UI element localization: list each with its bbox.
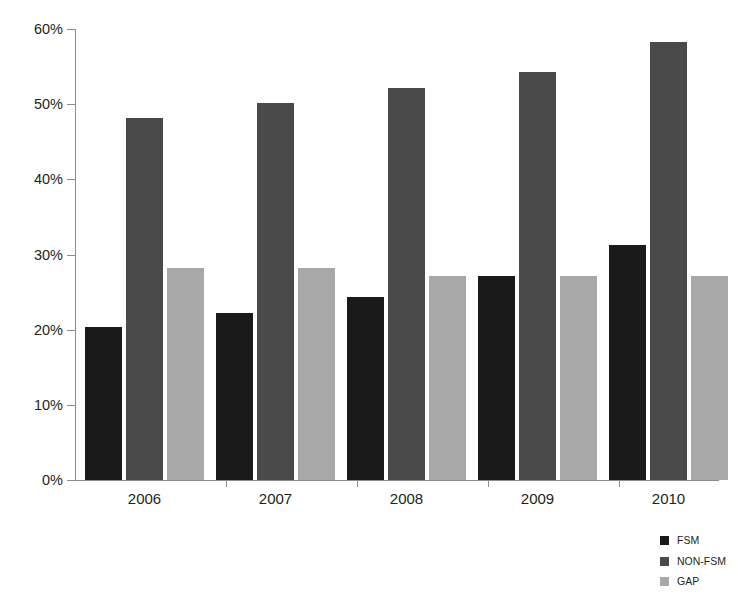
bar[interactable]: [429, 276, 466, 480]
legend-item-non-fsm[interactable]: NON-FSM: [660, 553, 738, 574]
bar[interactable]: [85, 327, 122, 480]
legend-label-non-fsm: NON-FSM: [677, 553, 726, 569]
y-tick-label: 30%: [17, 248, 63, 263]
y-tick-mark: [67, 330, 76, 331]
bar[interactable]: [560, 276, 597, 480]
bar[interactable]: [167, 268, 204, 480]
bar[interactable]: [298, 268, 335, 480]
bar-group: [85, 29, 204, 480]
y-tick-mark: [67, 480, 76, 481]
bar[interactable]: [609, 245, 646, 480]
x-axis-label: 2008: [347, 491, 467, 506]
y-tick-label: 0%: [17, 473, 63, 488]
x-tick-mark: [226, 480, 227, 487]
y-tick-label: 40%: [17, 172, 63, 187]
x-axis-label: 2009: [478, 491, 598, 506]
chart-title: [28, 0, 588, 6]
x-axis-label: 2010: [609, 491, 729, 506]
x-axis-label: 2006: [85, 491, 205, 506]
y-tick-mark: [67, 104, 76, 105]
y-tick-mark: [67, 405, 76, 406]
x-tick-mark: [357, 480, 358, 487]
y-tick-label: 20%: [17, 323, 63, 338]
bar-group: [347, 29, 466, 480]
bar[interactable]: [519, 72, 556, 480]
plot-area: 0%10%20%30%40%50%60% 2006200720082009201…: [75, 29, 719, 480]
legend-swatch-icon-fsm: [660, 536, 669, 545]
x-tick-mark: [488, 480, 489, 487]
bar[interactable]: [478, 276, 515, 480]
y-tick-mark: [67, 29, 76, 30]
bar[interactable]: [388, 88, 425, 480]
bar[interactable]: [216, 313, 253, 480]
legend-swatch-icon-non-fsm: [660, 557, 669, 566]
y-tick-mark: [67, 255, 76, 256]
bar-group: [478, 29, 597, 480]
chart-legend: FSM NON-FSM GAP: [660, 532, 738, 594]
legend-label-fsm: FSM: [677, 532, 699, 548]
y-tick-label: 60%: [17, 22, 63, 37]
bar[interactable]: [691, 276, 728, 480]
x-tick-mark: [619, 480, 620, 487]
bar[interactable]: [126, 118, 163, 480]
y-tick-mark: [67, 179, 76, 180]
y-tick-label: 10%: [17, 398, 63, 413]
bar[interactable]: [257, 103, 294, 480]
bar-chart: 0%10%20%30%40%50%60% 2006200720082009201…: [0, 0, 738, 604]
legend-item-fsm[interactable]: FSM: [660, 532, 738, 553]
bar[interactable]: [347, 297, 384, 480]
bar-group: [216, 29, 335, 480]
legend-item-gap[interactable]: GAP: [660, 573, 738, 594]
y-tick-label: 50%: [17, 97, 63, 112]
x-axis-line: [75, 480, 719, 481]
legend-swatch-icon-gap: [660, 577, 669, 586]
x-axis-label: 2007: [216, 491, 336, 506]
bar[interactable]: [650, 42, 687, 480]
legend-label-gap: GAP: [677, 573, 699, 589]
bar-group: [609, 29, 728, 480]
